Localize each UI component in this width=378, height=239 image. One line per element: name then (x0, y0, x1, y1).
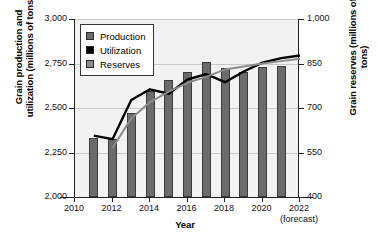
y-tick-left (69, 64, 74, 65)
x-tick-label: 2022 (279, 203, 319, 213)
legend-label-production: Production (100, 31, 145, 42)
y-tick-left (69, 108, 74, 109)
x-tick-label: 2010 (54, 203, 94, 213)
forecast-note: (forecast) (269, 214, 329, 224)
y-tick-label-left: 2,500 (27, 102, 67, 112)
y-tick-label-left: 2,000 (27, 191, 67, 201)
legend-swatch-production (86, 32, 94, 40)
y-tick-label-right: 700 (307, 102, 349, 112)
x-tick (149, 197, 150, 202)
x-tick-label: 2016 (167, 203, 207, 213)
y-tick-label-left: 2,750 (27, 58, 67, 68)
x-tick-label: 2018 (204, 203, 244, 213)
legend-item-reserves: Reserves (86, 57, 145, 71)
grain-chart: Grain production and utilization (millio… (0, 0, 378, 239)
y-tick-right (299, 108, 304, 109)
x-tick-label: 2014 (129, 203, 169, 213)
y-tick-label-right: 550 (307, 147, 349, 157)
x-tick-label: 2012 (92, 203, 132, 213)
y-axis-right-title: Grain reserves (millions of tons) (347, 0, 369, 127)
y-tick-label-left: 3,000 (27, 13, 67, 23)
x-tick-label: 2020 (242, 203, 282, 213)
y-tick-label-right: 850 (307, 58, 349, 68)
y-tick-right (299, 153, 304, 154)
y-tick-label-left: 2,250 (27, 147, 67, 157)
y-tick-left (69, 19, 74, 20)
x-tick (224, 197, 225, 202)
y-tick-right (299, 64, 304, 65)
legend-label-utilization: Utilization (100, 45, 141, 56)
y-tick-label-right: 400 (307, 191, 349, 201)
y-tick-label-right: 1,000 (307, 13, 349, 23)
legend-item-production: Production (86, 29, 145, 43)
x-tick (74, 197, 75, 202)
y-tick-right (299, 19, 304, 20)
legend-label-reserves: Reserves (100, 59, 140, 70)
legend-item-utilization: Utilization (86, 43, 145, 57)
legend: Production Utilization Reserves (80, 24, 154, 76)
x-tick (262, 197, 263, 202)
x-tick (299, 197, 300, 202)
legend-swatch-utilization (86, 46, 94, 54)
y-tick-left (69, 153, 74, 154)
legend-swatch-reserves (86, 60, 94, 68)
x-tick (112, 197, 113, 202)
x-tick (187, 197, 188, 202)
